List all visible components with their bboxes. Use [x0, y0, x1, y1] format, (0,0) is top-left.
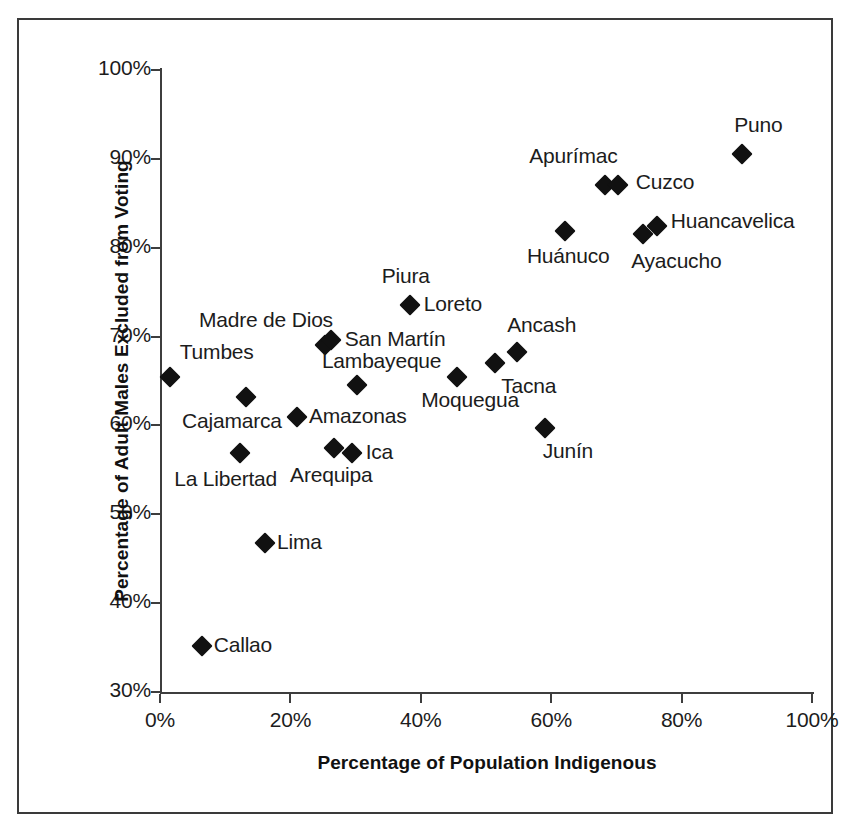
data-point-label: Loreto	[424, 292, 482, 316]
x-tick-label-100: 100%	[767, 708, 851, 732]
x-tick-40	[420, 694, 422, 703]
data-point-marker[interactable]	[399, 295, 420, 316]
x-tick-80	[681, 694, 683, 703]
data-point-marker[interactable]	[447, 367, 468, 388]
x-tick-0	[159, 694, 161, 703]
data-point-marker[interactable]	[235, 386, 256, 407]
y-tick-30	[151, 691, 160, 693]
x-tick-20	[289, 694, 291, 703]
data-point-label: Ayacucho	[631, 249, 721, 273]
y-axis-title-host: Percentage of Adult Males Excluded from …	[48, 0, 78, 760]
x-tick-60	[550, 694, 552, 703]
x-tick-label-60: 60%	[506, 708, 596, 732]
x-axis-title: Percentage of Population Indigenous	[160, 752, 814, 774]
data-point-marker[interactable]	[191, 635, 212, 656]
data-point-marker[interactable]	[732, 143, 753, 164]
data-point-label: Puno	[734, 113, 782, 137]
data-point-label: Apurímac	[529, 144, 617, 168]
data-point-marker[interactable]	[159, 366, 180, 387]
y-axis-title: Percentage of Adult Males Excluded from …	[111, 101, 133, 661]
y-tick-70	[151, 336, 160, 338]
x-tick-label-20: 20%	[245, 708, 335, 732]
data-point-marker[interactable]	[507, 341, 528, 362]
data-point-label: Ancash	[507, 313, 576, 337]
data-point-label: Tacna	[501, 374, 556, 398]
data-point-marker[interactable]	[286, 406, 307, 427]
data-point-marker[interactable]	[230, 442, 251, 463]
data-point-label: Piura	[382, 264, 430, 288]
x-axis-line	[160, 692, 814, 694]
data-point-marker[interactable]	[341, 442, 362, 463]
data-point-marker[interactable]	[346, 374, 367, 395]
data-point-label: La Libertad	[174, 467, 277, 491]
y-tick-90	[151, 158, 160, 160]
data-point-marker[interactable]	[323, 437, 344, 458]
data-point-label: Madre de Dios	[199, 308, 333, 332]
data-point-marker[interactable]	[534, 417, 555, 438]
data-point-marker[interactable]	[254, 532, 275, 553]
x-tick-label-80: 80%	[637, 708, 727, 732]
y-tick-label-30: 30%	[91, 678, 151, 702]
x-tick-label-40: 40%	[376, 708, 466, 732]
y-tick-60	[151, 424, 160, 426]
data-point-marker[interactable]	[554, 220, 575, 241]
data-point-label: Tumbes	[180, 340, 254, 364]
data-point-label: Huánuco	[527, 244, 610, 268]
data-point-marker[interactable]	[485, 353, 506, 374]
y-tick-40	[151, 602, 160, 604]
y-tick-50	[151, 513, 160, 515]
data-point-marker[interactable]	[607, 174, 628, 195]
x-tick-label-0: 0%	[115, 708, 205, 732]
y-tick-label-100: 100%	[91, 56, 151, 80]
data-point-label: Lima	[277, 530, 322, 554]
data-point-label: Huancavelica	[671, 209, 795, 233]
data-point-label: Cajamarca	[182, 409, 282, 433]
data-point-label: Amazonas	[309, 404, 407, 428]
data-point-label: Ica	[366, 440, 393, 464]
data-point-label: Arequipa	[290, 463, 372, 487]
data-point-label: Callao	[214, 633, 272, 657]
data-point-label: Lambayeque	[322, 349, 441, 373]
x-tick-100	[811, 694, 813, 703]
y-tick-100	[151, 69, 160, 71]
data-point-label: San Martín	[345, 327, 446, 351]
y-axis-line	[160, 68, 162, 694]
y-tick-80	[151, 247, 160, 249]
scatter-plot: 30%40%50%60%70%80%90%100% 0%20%40%60%80%…	[0, 0, 851, 831]
data-point-label: Cuzco	[636, 170, 695, 194]
data-point-label: Junín	[543, 439, 593, 463]
